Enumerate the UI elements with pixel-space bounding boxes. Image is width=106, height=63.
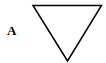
triangle-outline (33, 6, 102, 62)
figure-canvas: A (0, 0, 106, 63)
inverted-triangle-shape (0, 0, 106, 63)
